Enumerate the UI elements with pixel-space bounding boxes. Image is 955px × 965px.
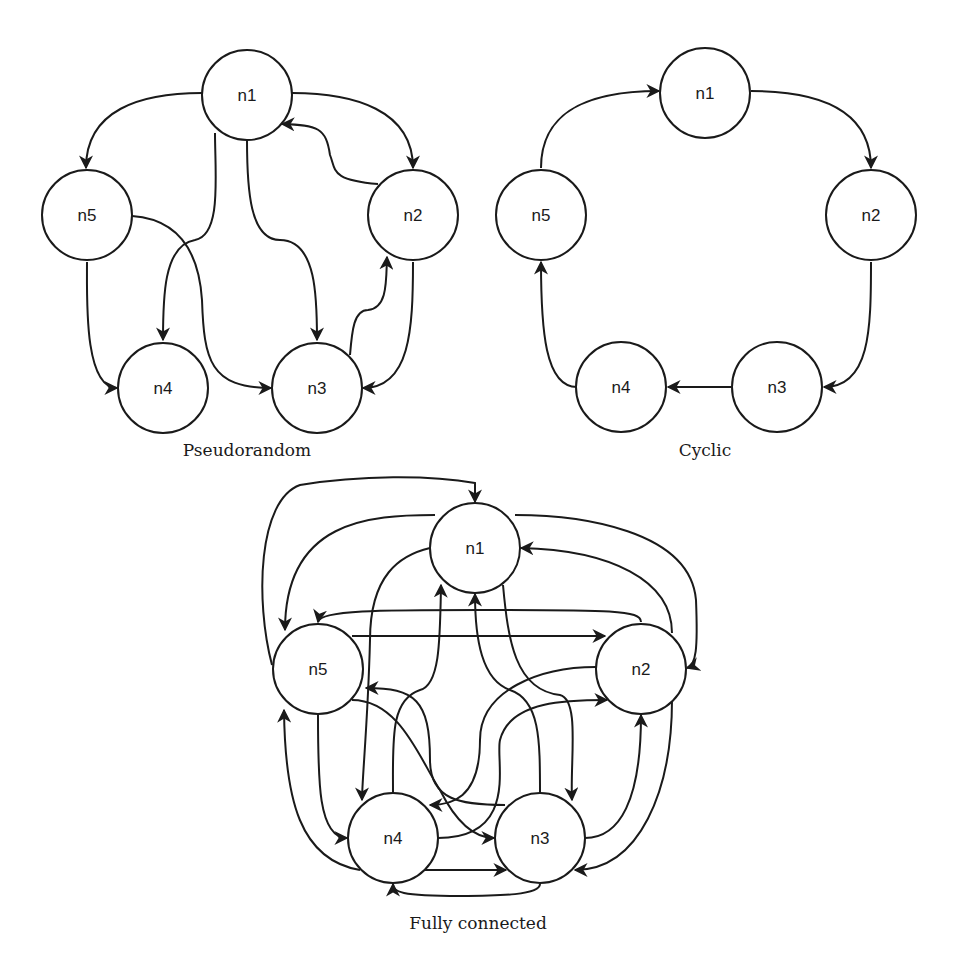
- edge-n1-to-n3: [503, 585, 573, 800]
- caption-cyclic: Cyclic: [679, 440, 732, 460]
- edge-n5-to-n1: [541, 91, 659, 168]
- edge-n1-to-n4: [362, 548, 430, 800]
- node-label: n1: [466, 539, 485, 558]
- node-n1: n1: [660, 48, 750, 138]
- caption-pseudorandom: Pseudorandom: [183, 440, 311, 460]
- edge-n2-to-n5: [318, 610, 641, 622]
- graph-pseudorandom: n1n2n3n4n5: [42, 50, 458, 433]
- node-n4: n4: [348, 793, 438, 883]
- graphs-layer: n1n2n3n4n5n1n2n3n4n5n1n2n3n4n5: [42, 48, 916, 896]
- edge-n5-to-n4: [87, 262, 117, 388]
- node-label: n3: [531, 829, 550, 848]
- graph-figure: n1n2n3n4n5n1n2n3n4n5n1n2n3n4n5: [0, 0, 955, 965]
- edge-n4-to-n5: [541, 262, 577, 387]
- edge-n5-to-n4: [318, 715, 347, 838]
- node-label: n1: [238, 86, 257, 105]
- node-label: n2: [404, 206, 423, 225]
- node-label: n2: [632, 660, 651, 679]
- node-n2: n2: [368, 170, 458, 260]
- edge-n1-to-n2: [292, 93, 413, 168]
- node-label: n5: [532, 206, 551, 225]
- edge-n3-to-n2: [585, 715, 641, 838]
- node-label: n4: [154, 379, 173, 398]
- node-label: n4: [612, 378, 631, 397]
- node-label: n3: [768, 378, 787, 397]
- node-n1: n1: [202, 50, 292, 140]
- edge-n1-to-n4: [163, 133, 216, 340]
- node-n4: n4: [576, 342, 666, 432]
- node-label: n2: [862, 206, 881, 225]
- edge-n4-to-n1: [393, 585, 441, 793]
- edge-n1-to-n3: [247, 140, 317, 340]
- node-n2: n2: [826, 170, 916, 260]
- node-label: n1: [696, 84, 715, 103]
- node-n5: n5: [496, 170, 586, 260]
- edge-n1-to-n2: [751, 91, 871, 168]
- node-n1: n1: [430, 503, 520, 593]
- edge-n3-to-n2: [350, 257, 387, 355]
- edge-n2-to-n1: [282, 124, 378, 184]
- edge-n2-to-n3: [363, 262, 413, 388]
- graph-fully-connected: n1n2n3n4n5: [262, 477, 696, 896]
- edge-n2-to-n3: [824, 262, 871, 387]
- node-n3: n3: [272, 343, 362, 433]
- node-label: n5: [78, 206, 97, 225]
- node-n2: n2: [596, 624, 686, 714]
- node-label: n5: [309, 660, 328, 679]
- graph-cyclic: n1n2n3n4n5: [496, 48, 916, 432]
- edge-n1-to-n5: [285, 515, 435, 630]
- node-label: n3: [308, 379, 327, 398]
- node-n4: n4: [118, 343, 208, 433]
- caption-fully-connected: Fully connected: [409, 913, 547, 933]
- edge-n2-to-n1: [521, 548, 672, 633]
- node-n5: n5: [273, 624, 363, 714]
- edge-n3-to-n5: [366, 688, 505, 805]
- node-n5: n5: [42, 170, 132, 260]
- edge-n1-to-n5: [86, 93, 202, 168]
- node-n3: n3: [732, 342, 822, 432]
- edge-n3-to-n4: [393, 884, 540, 896]
- node-label: n4: [384, 829, 403, 848]
- node-n3: n3: [495, 793, 585, 883]
- edge-n2-to-n3: [575, 700, 672, 870]
